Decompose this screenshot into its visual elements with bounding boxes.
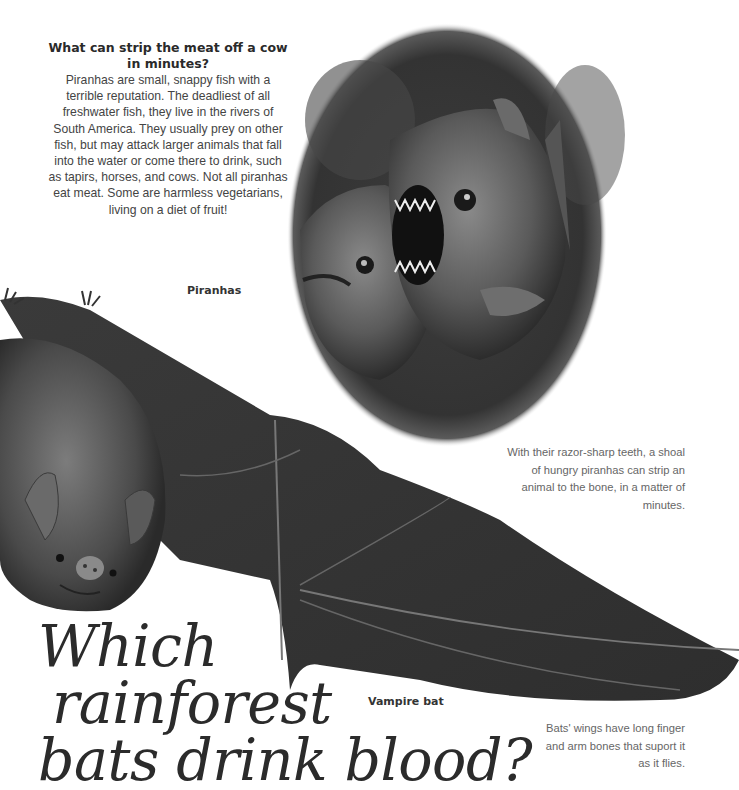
piranhas-image-label: Piranhas — [187, 284, 241, 297]
piranha-question-heading: What can strip the meat off a cow in min… — [48, 40, 288, 72]
vampire-bat-image-label: Vampire bat — [368, 695, 444, 708]
title-line-3: bats drink blood? — [38, 732, 532, 789]
bat-wing-caption: Bats' wings have long finger and arm bon… — [540, 720, 685, 773]
bat-question-title: Which rainforest bats drink blood? — [38, 618, 532, 789]
piranha-body-text: Piranhas are small, snappy fish with a t… — [48, 72, 288, 218]
piranha-illustration — [287, 23, 625, 447]
title-line-1: Which — [38, 618, 532, 675]
title-line-2: rainforest — [38, 675, 532, 732]
piranha-caption: With their razor-sharp teeth, a shoal of… — [500, 444, 685, 514]
